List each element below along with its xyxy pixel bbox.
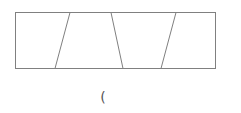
divider-line-3 (161, 13, 176, 69)
divider-line-2 (111, 13, 123, 69)
strip-diagram (0, 0, 241, 113)
divider-line-1 (55, 13, 70, 69)
outer-rectangle (16, 13, 216, 69)
caption-label: ( (96, 88, 110, 106)
